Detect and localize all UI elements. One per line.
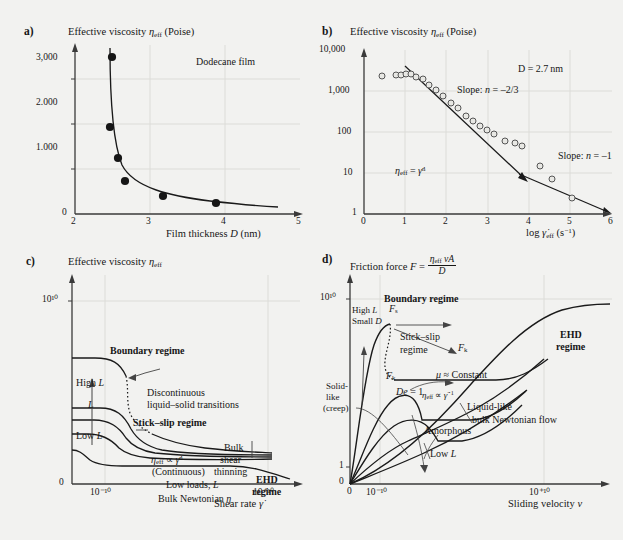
panel-b-ytick-10000: 10,000 [319, 44, 345, 54]
panel-c-bulk-line1: Bulk [224, 442, 243, 453]
panel-d-ehd-line2: regime [556, 341, 585, 352]
panel-c-xtick-low: 10⁻¹⁰ [90, 486, 111, 497]
panel-c-low-loads: Low loads, L [166, 479, 219, 490]
panel-d-xtick-0: 0 [347, 486, 352, 496]
panel-d-mu-constant: μ ≈ Constant [436, 369, 487, 380]
panel-d-ytick-0: 0 [339, 476, 344, 486]
panel-a-ytick-1000: 1.000 [36, 142, 57, 152]
panel-c-bulk-line3: thinning [214, 466, 247, 477]
panel-c-l-label: L [88, 399, 94, 410]
panel-d-solidlike-line2: like [326, 392, 340, 402]
panel-c-curve-high-l [72, 358, 126, 376]
panel-d-liquidlike-line1: Liquid-like [467, 401, 512, 412]
panel-d-fs-label: Fs [389, 303, 398, 315]
panel-c-xaxis-label: Shear rate γ̇ [214, 498, 263, 509]
panel-c-low-l: Low L [76, 430, 102, 441]
panel-a-xtick-5: 5 [296, 216, 301, 226]
panel-d-de-one: De = 1 [396, 386, 423, 397]
panel-a-axes [71, 43, 303, 217]
panel-b-ytick-100: 100 [337, 126, 351, 136]
panel-d: d) Friction force F = ηeff vA D [312, 245, 623, 540]
panel-c-ehd-line1: EHD [256, 474, 278, 485]
panel-c-discontinuous-line1: Discontinuous [147, 387, 205, 398]
panel-a-xtick-2: 2 [71, 216, 76, 226]
panel-d-stick-slip-line2: regime [400, 344, 428, 355]
panel-d-high-l: High L [352, 305, 377, 315]
panel-d-small-d: Small D [352, 316, 382, 326]
panel-b: b) Effective viscosity ηeff (Poise) [312, 0, 623, 245]
panel-a-ytick-2000: 2.000 [36, 97, 57, 107]
panel-d-ytick-1e10: 10¹⁰ [320, 291, 336, 302]
panel-d-fk-right-label: Fk [458, 342, 468, 354]
panel-b-ytick-10: 10 [343, 167, 353, 177]
panel-d-xtick-low: 10⁻¹⁰ [366, 486, 387, 497]
panel-d-solidlike-line1: Solid- [326, 381, 348, 391]
panel-b-slope-label-2: Slope: n = –1 [558, 150, 612, 161]
panel-d-curve-high-l [350, 324, 390, 484]
panel-d-solidlike-line3: (creep) [323, 403, 348, 413]
panel-d-stick-slip-line1: Stick–slip [400, 331, 440, 342]
panel-c-stick-slip: Stick–slip regime [133, 417, 206, 428]
panel-a-ytick-0: 0 [62, 207, 67, 217]
panel-b-ytick-1: 1 [352, 207, 357, 217]
panel-c-ytick-1e10: 10¹⁰ [42, 293, 58, 304]
panel-d-leader-solidlike [356, 408, 408, 455]
panel-a-plot [0, 0, 312, 245]
panel-d-low-l: Low L [430, 448, 456, 459]
panel-b-slope-label-1: Slope: n = –2/3 [457, 84, 518, 95]
panel-d-plot [312, 245, 623, 540]
panel-a-fit-curve [110, 48, 278, 207]
panel-c-leader-discontinuous [133, 369, 160, 377]
panel-d-xtick-high: 10⁺¹⁰ [529, 486, 550, 497]
panel-d-ehd-line1: EHD [560, 329, 582, 340]
panel-c-xtick-high: 10⁺¹⁰ [253, 486, 274, 497]
panel-b-ytick-1000: 1,000 [328, 85, 349, 95]
panel-b-xtick-6: 6 [608, 216, 613, 226]
panel-a-xtick-3: 3 [146, 216, 151, 226]
panel-b-slope-line-1 [405, 66, 523, 177]
figure-root: a) Effective viscosity ηeff (Poise) [0, 0, 623, 540]
panel-c-boundary-regime: Boundary regime [110, 345, 185, 356]
panel-b-xtick-0: 0 [361, 216, 366, 226]
panel-d-amorphous: Amorphous [424, 425, 471, 436]
panel-b-xaxis-label: log γ̇eff (s−1) [526, 227, 575, 240]
panel-b-xtick-4: 4 [526, 216, 531, 226]
panel-a-annotation: Dodecane film [196, 56, 255, 67]
panel-a-data-points [106, 53, 220, 207]
panel-c-continuous: (Continuous) [152, 466, 205, 477]
panel-c-high-l: High L [76, 377, 104, 388]
panel-c-bulk-line2: shear [220, 454, 241, 465]
panel-b-annotation: D = 2.7 nm [518, 63, 563, 74]
panel-d-liquidlike-line2: bulk Newtonian flow [472, 414, 557, 425]
panel-b-plot [312, 0, 623, 245]
panel-b-powerlaw-label: ηeff = γ̇n [395, 165, 425, 177]
panel-a-xtick-4: 4 [221, 216, 226, 226]
panel-a: a) Effective viscosity ηeff (Poise) [0, 0, 312, 245]
panel-c: c) Effective viscosity ηeff [0, 245, 312, 540]
panel-c-powerlaw: ηeff ∝ γ̇n [151, 454, 183, 466]
panel-b-xtick-1: 1 [402, 216, 407, 226]
panel-d-xaxis-label: Sliding velocity v [508, 498, 582, 509]
panel-d-eta-gamma: ηeff ∝ γ̇−1 [422, 390, 454, 401]
panel-c-ytick-0: 0 [59, 477, 64, 487]
panel-b-xtick-5: 5 [567, 216, 572, 226]
panel-a-ytick-3000: 3,000 [36, 52, 57, 62]
panel-b-xtick-3: 3 [485, 216, 490, 226]
panel-c-curve-high-l-tail [152, 434, 272, 453]
panel-c-discontinuous-line2: liquid–solid transitions [147, 399, 239, 410]
panel-d-fk-left-label: Fk [386, 370, 396, 382]
panel-b-xtick-2: 2 [443, 216, 448, 226]
panel-d-ytick-1: 1 [339, 460, 344, 470]
panel-a-xaxis-label: Film thickness D (nm) [166, 228, 261, 239]
panel-b-slope-line-2 [519, 174, 608, 212]
